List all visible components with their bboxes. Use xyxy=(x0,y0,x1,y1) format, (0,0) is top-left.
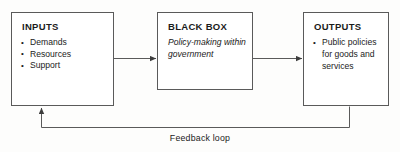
black-box-body: Policy-making within government xyxy=(168,36,246,60)
inputs-bullet-list: Demands Resources Support xyxy=(21,37,71,72)
list-item: Public policies for goods and services xyxy=(313,37,381,72)
inputs-box: INPUTS Demands Resources Support xyxy=(11,12,114,106)
outputs-box: OUTPUTS Public policies for goods and se… xyxy=(303,12,389,106)
list-item: Resources xyxy=(21,49,71,61)
list-item: Support xyxy=(21,60,71,72)
diagram-canvas: INPUTS Demands Resources Support BLACK B… xyxy=(0,0,400,152)
black-box-title: BLACK BOX xyxy=(168,21,227,32)
list-item: Demands xyxy=(21,37,71,49)
feedback-loop-path xyxy=(42,107,350,128)
inputs-box-title: INPUTS xyxy=(22,21,59,32)
feedback-loop-label: Feedback loop xyxy=(0,133,400,143)
outputs-box-title: OUTPUTS xyxy=(314,21,362,32)
outputs-bullet-list: Public policies for goods and services xyxy=(313,37,381,72)
black-box: BLACK BOX Policy-making within governmen… xyxy=(157,12,253,90)
